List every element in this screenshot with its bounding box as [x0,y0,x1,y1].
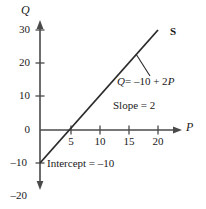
x-axis-arrow-right [173,127,182,134]
equation-leader-line [136,54,150,76]
y-tick-label-minus-20: –20 [3,190,27,201]
x-tick-label-20: 20 [148,136,168,147]
x-tick-label-10: 10 [90,136,110,147]
y-tick-label-0: 0 [6,124,30,135]
supply-curve-label: S [170,26,176,37]
supply-curve-figure: Q P 30 20 10 0 –10 –20 5 10 15 20 S Q= –… [0,0,206,209]
equation-q-symbol: Q [117,75,125,87]
y-axis-arrow-top [37,20,44,29]
intercept-annotation: Intercept = –10 [47,158,114,169]
y-tick-label-30: 30 [6,24,30,35]
equation-body: = –10 + 2 [125,75,168,87]
x-axis-label: P [186,121,193,133]
y-axis-label: Q [21,4,30,16]
equation-annotation: Q= –10 + 2P [117,76,174,87]
y-axis-arrow-bottom [37,181,44,190]
y-tick-label-minus-10: –10 [3,157,27,168]
y-tick-label-20: 20 [6,57,30,68]
slope-annotation: Slope = 2 [113,100,155,111]
equation-p-symbol: P [168,75,175,87]
x-tick-label-5: 5 [61,136,81,147]
y-tick-label-10: 10 [6,90,30,101]
x-tick-label-15: 15 [119,136,139,147]
